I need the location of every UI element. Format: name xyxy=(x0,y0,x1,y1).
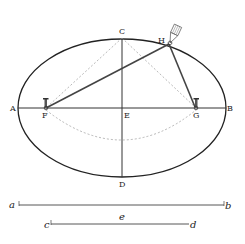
label-h: H xyxy=(158,36,165,45)
dashed-line-cf xyxy=(46,38,122,108)
label-e-lower: e xyxy=(119,211,125,222)
label-g: G xyxy=(193,111,199,120)
dashed-arc-fg xyxy=(46,110,196,140)
string-hg xyxy=(169,44,195,107)
label-d-lower: d xyxy=(190,219,196,230)
label-b: B xyxy=(227,104,233,113)
label-f: F xyxy=(42,111,48,120)
label-c-lower: c xyxy=(44,219,50,230)
string-fh xyxy=(46,44,169,108)
label-b-lower: b xyxy=(225,200,231,211)
label-a: A xyxy=(9,104,16,113)
label-e: E xyxy=(124,111,130,120)
label-d: D xyxy=(119,180,125,189)
label-c: C xyxy=(119,27,125,36)
ellipse-diagram: A B C D E F G H a b c e d xyxy=(0,0,245,244)
pencil-icon xyxy=(166,24,182,46)
label-a-lower: a xyxy=(9,199,15,210)
